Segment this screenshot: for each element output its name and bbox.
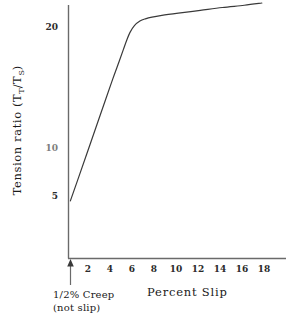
chart-figure: 20 10 5 2 4 6 8 10 12 14 16 18 Tension r…: [0, 0, 291, 325]
x-tick-label-6: 6: [129, 265, 135, 274]
creep-annotation-line2: (not slip): [53, 301, 114, 314]
y-axis-title-prefix: Tension ratio (T: [10, 94, 24, 196]
creep-arrow-icon: [67, 259, 74, 285]
x-tick-label-14: 14: [214, 265, 227, 274]
y-axis-title: Tension ratio (TT/TS): [2, 0, 34, 260]
data-curve: [70, 3, 261, 201]
y-axis-title-suffix: ): [10, 65, 24, 70]
x-tick-label-10: 10: [170, 265, 183, 274]
y-tick-label-5: 5: [36, 192, 58, 201]
x-tick-label-18: 18: [258, 265, 271, 274]
y-axis-title-sub-s: S: [17, 70, 26, 75]
x-tick-label-2: 2: [85, 265, 91, 274]
y-tick-label-10: 10: [36, 144, 58, 153]
x-tick-label-12: 12: [192, 265, 205, 274]
y-tick-label-20: 20: [36, 23, 58, 32]
x-tick-label-16: 16: [236, 265, 249, 274]
x-tick-label-4: 4: [107, 265, 113, 274]
creep-annotation-line1: 1/2% Creep: [53, 288, 114, 301]
y-axis-title-sub-t: T: [17, 88, 26, 93]
plot-canvas: [0, 0, 291, 325]
y-axis-title-slash: /T: [10, 75, 24, 88]
x-tick-label-8: 8: [151, 265, 157, 274]
creep-annotation: 1/2% Creep (not slip): [53, 288, 114, 314]
x-axis-title: Percent Slip: [147, 285, 228, 299]
